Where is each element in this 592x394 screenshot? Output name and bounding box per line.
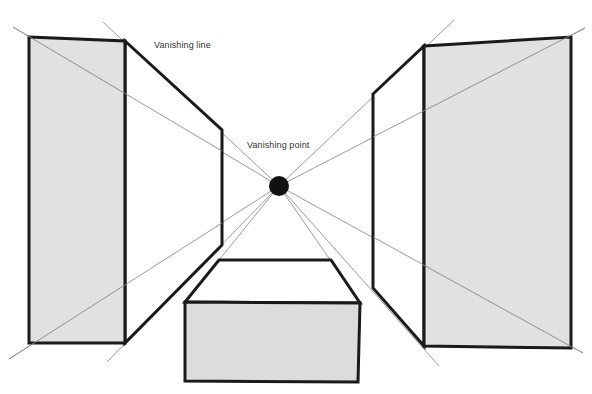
right-block-front-face [424,37,571,348]
vanishing-point-dot [269,176,289,196]
right-block [373,37,571,348]
bottom-box [185,260,360,382]
bottom-box-top-face [185,260,360,303]
perspective-diagram [0,0,592,394]
bottom-box-front-face [185,302,360,382]
vanishing-point-label: Vanishing point [247,140,309,150]
vanishing-line-label: Vanishing line [154,40,211,50]
left-block-front-face [29,37,125,343]
